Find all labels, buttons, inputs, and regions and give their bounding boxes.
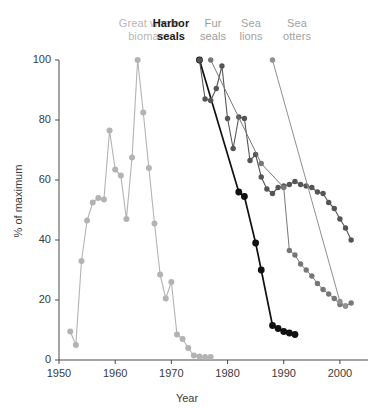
data-point [129,155,135,161]
data-point [202,354,208,360]
series-layer [67,57,354,360]
chart-svg [0,0,374,412]
data-point [259,161,264,166]
data-point [90,200,96,206]
x-tick-label: 1950 [34,367,84,379]
y-tick-label: 60 [0,173,51,185]
data-point [101,197,107,203]
data-point [196,353,202,359]
series-sea-lions [208,57,354,308]
data-point [292,331,299,338]
data-point [78,258,84,264]
data-point [219,63,224,68]
data-point [348,300,353,305]
axis-layer [55,60,368,364]
data-point [259,174,264,179]
series-line [272,60,345,306]
data-point [157,272,163,278]
data-point [247,158,252,163]
x-tick-label: 2000 [315,367,365,379]
data-point [315,281,320,286]
data-point [118,173,124,179]
data-point [208,354,214,360]
series-line [70,60,210,357]
x-tick-label: 1980 [203,367,253,379]
data-point [332,296,337,301]
data-point [275,185,280,190]
data-point [326,200,331,205]
legend-sea-otters: Sea otters [272,17,322,42]
data-point [326,291,331,296]
data-point [185,345,191,351]
data-point [84,218,90,224]
data-point [270,191,275,196]
legend-sea-lions: Sea lions [229,17,273,42]
data-point [208,98,213,103]
series-fur-seals [197,57,354,242]
series-great-whale-biomass [67,57,213,360]
data-point [242,116,247,121]
data-point [332,206,337,211]
data-point [309,273,314,278]
x-tick-label: 1960 [90,367,140,379]
data-point [320,191,325,196]
data-point [337,299,342,304]
data-point [343,225,348,230]
data-point [140,110,146,116]
data-point [235,189,242,196]
data-point [225,116,230,121]
data-point [123,216,129,222]
data-point [264,186,269,191]
data-point [298,182,303,187]
series-line [211,60,351,306]
data-point [298,261,303,266]
data-point [197,57,202,62]
series-sea-otters [270,57,348,308]
data-point [214,86,219,91]
data-point [67,329,73,335]
data-point [252,240,259,247]
data-point [107,128,113,134]
data-point [309,185,314,190]
data-point [241,193,248,200]
data-point [180,336,186,342]
data-point [73,342,79,348]
data-point [258,267,265,274]
data-point [230,146,235,151]
data-point [95,195,101,201]
data-point [337,216,342,221]
chart-figure: Great whale biomass Harbor seals Fur sea… [0,0,374,412]
x-tick-label: 1970 [146,367,196,379]
data-point [287,248,292,253]
y-tick-label: 20 [0,293,51,305]
data-point [152,221,158,227]
y-tick-label: 40 [0,233,51,245]
data-point [287,182,292,187]
y-tick-label: 0 [0,353,51,365]
data-point [281,185,286,190]
data-point [343,303,348,308]
data-point [202,96,207,101]
y-tick-label: 80 [0,113,51,125]
data-point [292,179,297,184]
y-tick-label: 100 [0,53,51,65]
data-point [270,57,275,62]
data-point [163,296,169,302]
data-point [174,332,180,338]
data-point [168,279,174,285]
data-point [348,237,353,242]
data-point [320,287,325,292]
data-point [135,57,141,63]
data-point [191,353,197,359]
x-tick-label: 1990 [259,367,309,379]
data-point [292,252,297,257]
x-axis-title: Year [0,392,374,404]
data-point [304,267,309,272]
series-line [199,60,351,240]
data-point [146,165,152,171]
data-point [208,57,213,62]
data-point [315,189,320,194]
data-point [112,167,118,173]
